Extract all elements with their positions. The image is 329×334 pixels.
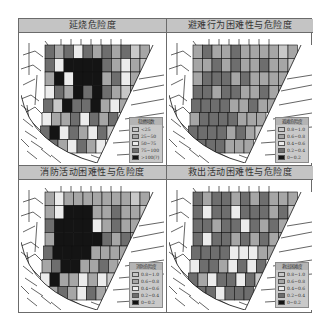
map-block (102, 45, 112, 59)
legend-item: 0.4~0.6 (132, 285, 160, 292)
map-block (102, 72, 112, 86)
map-block (45, 192, 55, 206)
map-block (91, 99, 101, 113)
legend-label: >100(?) (141, 154, 159, 161)
map-block (88, 273, 98, 287)
legend-swatch (132, 293, 139, 298)
legend-label: 0.2~0.4 (141, 292, 159, 299)
map-block (230, 246, 240, 260)
map-block (216, 287, 226, 301)
map-block (61, 113, 71, 127)
map-block (45, 206, 55, 220)
map-block (87, 140, 97, 154)
legend-label: 0.6~0.8 (287, 278, 305, 285)
map-block (217, 273, 227, 287)
legend-item: 0.4~0.6 (278, 140, 306, 147)
map-block (239, 246, 249, 260)
map-block (112, 233, 122, 247)
map-block (212, 233, 222, 247)
map-block (82, 99, 92, 113)
map-block (83, 72, 93, 86)
map-block (198, 126, 208, 140)
map-block (69, 273, 79, 287)
map-block (98, 126, 108, 140)
legend-item: 0~0.2 (278, 299, 306, 306)
map-block (88, 126, 98, 140)
map-block (101, 246, 111, 260)
map-block (227, 126, 237, 140)
map-block (269, 72, 279, 86)
map-block (279, 45, 289, 59)
legend-swatch (132, 286, 139, 291)
figure-frame: 延烧危险度 稳燃倾数<2525~5050~7575~100>100(?) 避难行… (18, 18, 312, 313)
map-block (231, 219, 241, 233)
map-block (71, 113, 81, 127)
legend-item: 0.8~1.0 (278, 126, 306, 133)
legend-label: 0.8~1.0 (287, 271, 305, 278)
map-block (193, 59, 203, 73)
map-block (203, 86, 213, 100)
map-block (79, 273, 89, 287)
map-block (74, 86, 84, 100)
map-block (260, 206, 270, 220)
map-block (60, 126, 70, 140)
map-block (231, 233, 241, 247)
map-block (50, 273, 60, 287)
map-block (69, 126, 79, 140)
map-block (220, 99, 230, 113)
map-block (269, 206, 279, 220)
legend-item: 0.6~0.8 (278, 133, 306, 140)
map-block (217, 126, 227, 140)
map-block (231, 206, 241, 220)
map-block (121, 192, 131, 206)
legend-item: 0.2~0.4 (278, 147, 306, 154)
map-block (222, 192, 232, 206)
map-block (112, 206, 122, 220)
map-block (93, 45, 103, 59)
map-block (231, 45, 241, 59)
legend: 稳燃倾数<2525~5050~7575~100>100(?) (129, 117, 163, 163)
map-block (64, 192, 74, 206)
map-block (42, 113, 52, 127)
map-block (260, 45, 270, 59)
map-block (209, 260, 219, 274)
map-block (83, 206, 93, 220)
map-block (93, 86, 103, 100)
map-block (222, 59, 232, 73)
panel-firefighting: 消防活动困难性与危险度 消防危险度0.8~1.00.6~0.80.4~0.60.… (19, 166, 166, 314)
map-block (98, 273, 108, 287)
map-block (83, 192, 93, 206)
map-block (45, 233, 55, 247)
map-block (121, 45, 131, 59)
map-block (190, 113, 200, 127)
map-block (55, 206, 65, 220)
map-block (200, 260, 210, 274)
map-block (121, 219, 131, 233)
map-block (68, 287, 78, 301)
map-block (131, 192, 141, 206)
map-block (112, 72, 122, 86)
legend-swatch (132, 134, 139, 139)
map-block (279, 192, 289, 206)
map-block (220, 246, 230, 260)
map-block (228, 113, 238, 127)
map-block (64, 206, 74, 220)
panel-title: 救出活动困难性与危险度 (167, 166, 313, 180)
panel-evacuation: 避难行为困难性与危险度 避难危险度0.8~1.00.6~0.80.4~0.60.… (167, 19, 313, 165)
map-block (203, 59, 213, 73)
legend-swatch (132, 141, 139, 146)
map-block (247, 260, 257, 274)
map-block (279, 206, 289, 220)
map-block (246, 273, 256, 287)
legend-swatch (132, 155, 139, 160)
map-block (198, 273, 208, 287)
map-block (102, 219, 112, 233)
legend-label: 0.6~0.8 (141, 278, 159, 285)
map-block (83, 233, 93, 247)
map-block (216, 140, 226, 154)
map-block (72, 99, 82, 113)
map-block (231, 59, 241, 73)
map-block (203, 219, 213, 233)
legend-label: 50~75 (141, 140, 156, 147)
map-block (93, 219, 103, 233)
